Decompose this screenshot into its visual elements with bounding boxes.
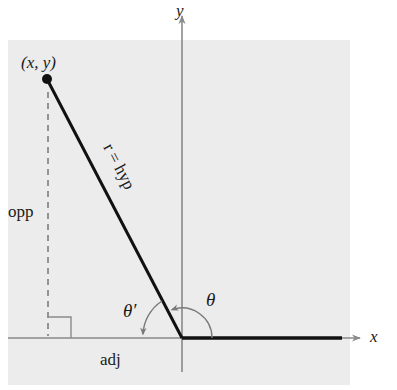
point-label: (x, y) — [21, 53, 56, 72]
adjacent-label: adj — [100, 350, 121, 369]
theta-prime-label: θ′ — [123, 300, 137, 321]
point-marker — [42, 74, 52, 84]
theta-label: θ — [206, 289, 215, 310]
y-axis-label: y — [174, 1, 184, 20]
opposite-label: opp — [8, 202, 34, 221]
reference-angle-diagram: y x (x, y) opp adj θ θ′ r = hyp — [0, 0, 397, 390]
x-axis-label: x — [369, 327, 378, 346]
